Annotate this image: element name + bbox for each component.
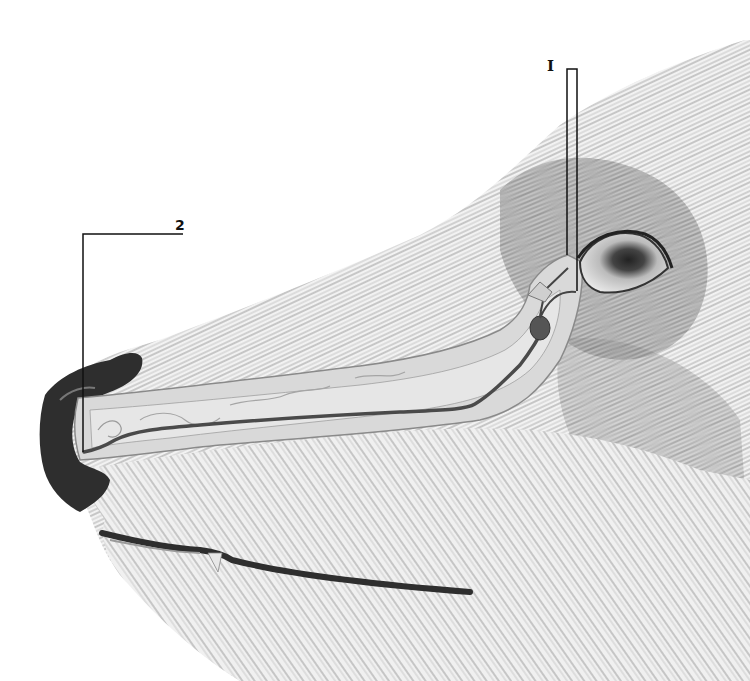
- label-1: I: [547, 59, 554, 74]
- lacrimal-sac: [530, 316, 550, 340]
- illustration-canvas: I 2: [0, 0, 750, 681]
- label-2: 2: [175, 218, 185, 232]
- lower-jaw-fur: [80, 428, 750, 681]
- muzzle-illustration: [0, 0, 750, 681]
